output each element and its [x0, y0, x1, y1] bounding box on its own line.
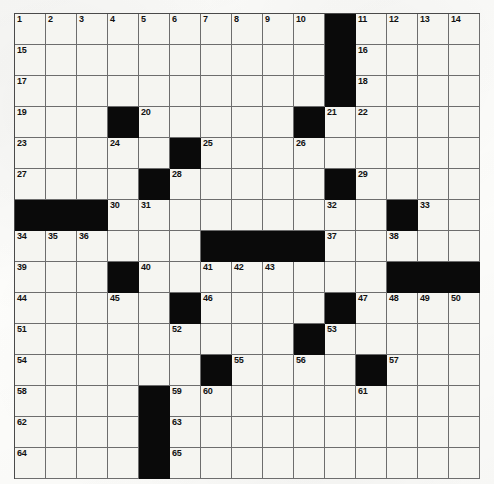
crossword-cell[interactable] [356, 448, 387, 479]
crossword-cell[interactable] [387, 138, 418, 169]
crossword-cell[interactable] [232, 45, 263, 76]
crossword-cell[interactable] [294, 262, 325, 293]
crossword-cell[interactable] [294, 448, 325, 479]
crossword-cell[interactable]: 3 [77, 14, 108, 45]
crossword-cell[interactable] [263, 417, 294, 448]
crossword-cell[interactable] [77, 417, 108, 448]
crossword-cell[interactable] [232, 386, 263, 417]
crossword-cell[interactable]: 59 [170, 386, 201, 417]
crossword-cell[interactable] [232, 293, 263, 324]
crossword-cell[interactable] [418, 448, 449, 479]
crossword-cell[interactable]: 62 [15, 417, 46, 448]
crossword-cell[interactable] [449, 76, 480, 107]
crossword-cell[interactable]: 37 [325, 231, 356, 262]
crossword-grid[interactable]: 1234567891011121314151617181920212223242… [14, 13, 480, 479]
crossword-cell[interactable] [139, 293, 170, 324]
crossword-cell[interactable] [46, 138, 77, 169]
crossword-cell[interactable] [170, 107, 201, 138]
crossword-cell[interactable] [449, 386, 480, 417]
crossword-cell[interactable] [170, 200, 201, 231]
crossword-cell[interactable] [418, 169, 449, 200]
crossword-cell[interactable] [356, 200, 387, 231]
crossword-cell[interactable] [449, 107, 480, 138]
crossword-cell[interactable] [201, 417, 232, 448]
crossword-cell[interactable]: 56 [294, 355, 325, 386]
crossword-cell[interactable]: 27 [15, 169, 46, 200]
crossword-cell[interactable]: 60 [201, 386, 232, 417]
crossword-cell[interactable] [77, 107, 108, 138]
crossword-cell[interactable] [294, 200, 325, 231]
crossword-cell[interactable]: 40 [139, 262, 170, 293]
crossword-cell[interactable] [263, 107, 294, 138]
crossword-cell[interactable] [387, 417, 418, 448]
crossword-cell[interactable] [356, 138, 387, 169]
crossword-cell[interactable]: 23 [15, 138, 46, 169]
crossword-cell[interactable] [170, 262, 201, 293]
crossword-cell[interactable] [46, 324, 77, 355]
crossword-cell[interactable] [232, 138, 263, 169]
crossword-cell[interactable] [325, 262, 356, 293]
crossword-cell[interactable] [263, 386, 294, 417]
crossword-cell[interactable] [77, 324, 108, 355]
crossword-cell[interactable] [263, 76, 294, 107]
crossword-cell[interactable]: 6 [170, 14, 201, 45]
crossword-cell[interactable] [325, 448, 356, 479]
crossword-cell[interactable] [387, 107, 418, 138]
crossword-cell[interactable] [46, 45, 77, 76]
crossword-cell[interactable] [232, 200, 263, 231]
crossword-cell[interactable]: 21 [325, 107, 356, 138]
crossword-cell[interactable]: 54 [15, 355, 46, 386]
crossword-cell[interactable] [449, 169, 480, 200]
crossword-cell[interactable]: 63 [170, 417, 201, 448]
crossword-cell[interactable] [263, 200, 294, 231]
crossword-cell[interactable]: 10 [294, 14, 325, 45]
crossword-cell[interactable] [46, 76, 77, 107]
crossword-cell[interactable]: 58 [15, 386, 46, 417]
crossword-cell[interactable] [449, 231, 480, 262]
crossword-cell[interactable]: 30 [108, 200, 139, 231]
crossword-cell[interactable] [108, 76, 139, 107]
crossword-cell[interactable]: 33 [418, 200, 449, 231]
crossword-cell[interactable] [294, 45, 325, 76]
crossword-cell[interactable] [263, 138, 294, 169]
crossword-cell[interactable] [418, 45, 449, 76]
crossword-cell[interactable]: 29 [356, 169, 387, 200]
crossword-cell[interactable] [201, 169, 232, 200]
crossword-cell[interactable] [325, 386, 356, 417]
crossword-cell[interactable]: 12 [387, 14, 418, 45]
crossword-cell[interactable]: 52 [170, 324, 201, 355]
crossword-cell[interactable]: 7 [201, 14, 232, 45]
crossword-cell[interactable] [294, 386, 325, 417]
crossword-cell[interactable] [418, 386, 449, 417]
crossword-cell[interactable] [387, 324, 418, 355]
crossword-cell[interactable] [201, 76, 232, 107]
crossword-cell[interactable]: 57 [387, 355, 418, 386]
crossword-cell[interactable] [418, 355, 449, 386]
crossword-cell[interactable]: 17 [15, 76, 46, 107]
crossword-cell[interactable] [77, 76, 108, 107]
crossword-cell[interactable] [201, 45, 232, 76]
crossword-cell[interactable] [263, 45, 294, 76]
crossword-cell[interactable] [325, 138, 356, 169]
crossword-cell[interactable] [232, 448, 263, 479]
crossword-cell[interactable] [46, 293, 77, 324]
crossword-cell[interactable] [46, 448, 77, 479]
crossword-cell[interactable] [46, 107, 77, 138]
crossword-cell[interactable] [325, 355, 356, 386]
crossword-cell[interactable]: 55 [232, 355, 263, 386]
crossword-cell[interactable] [387, 169, 418, 200]
crossword-cell[interactable]: 9 [263, 14, 294, 45]
crossword-cell[interactable]: 49 [418, 293, 449, 324]
crossword-cell[interactable] [77, 293, 108, 324]
crossword-cell[interactable] [139, 355, 170, 386]
crossword-cell[interactable] [201, 324, 232, 355]
crossword-cell[interactable] [418, 76, 449, 107]
crossword-cell[interactable] [139, 231, 170, 262]
crossword-cell[interactable]: 24 [108, 138, 139, 169]
crossword-cell[interactable] [449, 138, 480, 169]
crossword-cell[interactable]: 16 [356, 45, 387, 76]
crossword-cell[interactable]: 14 [449, 14, 480, 45]
crossword-cell[interactable]: 44 [15, 293, 46, 324]
crossword-cell[interactable]: 4 [108, 14, 139, 45]
crossword-cell[interactable] [387, 386, 418, 417]
